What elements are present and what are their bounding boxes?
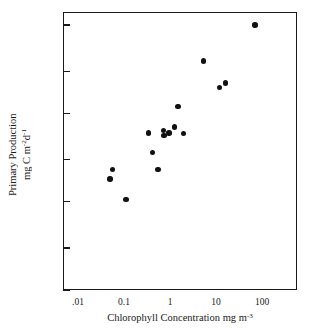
y-axis-title-line-2: mg C m-2d-1	[20, 60, 34, 250]
data-point	[107, 176, 112, 181]
data-point	[146, 130, 151, 135]
data-point	[172, 124, 177, 129]
data-point	[217, 85, 222, 90]
x-axis-title: Chlorophyll Concentration mg m-3	[63, 311, 297, 325]
scatter-chart-figure: 10,0003,0001,0003001003010 .010.1110100 …	[0, 0, 311, 335]
y-axis-title-units-b: d	[21, 135, 32, 140]
x-axis-tick-label: 100	[232, 296, 292, 308]
y-axis-title-units-a: mg C m	[21, 147, 32, 181]
x-axis-title-exponent: -3	[247, 312, 253, 320]
data-point	[166, 130, 171, 135]
data-point	[223, 80, 228, 85]
data-point	[150, 150, 155, 155]
data-point	[181, 131, 186, 136]
y-axis-title: Primary Production mg C m-2d-1	[4, 60, 38, 250]
data-point	[175, 104, 180, 109]
data-point	[201, 58, 206, 63]
data-point	[155, 167, 160, 172]
data-point	[123, 197, 128, 202]
data-point-layer	[63, 12, 297, 290]
y-axis-title-exponent-2: -1	[20, 130, 28, 136]
data-point	[110, 167, 115, 172]
data-point	[252, 22, 257, 27]
y-axis-title-line-1: Primary Production	[6, 60, 20, 250]
x-axis-title-text: Chlorophyll Concentration mg m	[107, 312, 247, 323]
y-axis-title-exponent-1: -2	[20, 141, 28, 147]
